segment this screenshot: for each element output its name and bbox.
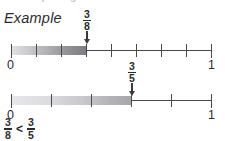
eighths-shaded-bar	[11, 46, 86, 55]
inequality-right-fraction: 3 5	[27, 118, 35, 139]
inequality-statement: 3 8 < 3 5	[4, 118, 35, 140]
pointer-numerator: 3	[74, 10, 100, 19]
fifths-tick-2	[91, 94, 92, 107]
fifths-tick-5	[211, 94, 212, 108]
pointer-numerator: 3	[119, 62, 145, 71]
fifths-axis	[0, 94, 225, 108]
clipped-header-strip: Comparing fractions	[0, 0, 225, 7]
right-denominator: 5	[27, 131, 35, 140]
eighths-axis	[0, 44, 225, 58]
eighths-tick-2	[61, 44, 62, 57]
eighths-tick-6	[161, 44, 162, 57]
inequality-left-fraction: 3 8	[4, 118, 12, 139]
down-arrow-icon	[84, 31, 91, 44]
fifths-shaded-bar	[11, 96, 131, 105]
fifths-tick-3	[131, 94, 132, 107]
eighths-tick-7	[186, 44, 187, 57]
pointer-three-eighths: 3 8	[74, 10, 100, 44]
inequality-operator: <	[16, 122, 23, 136]
pointer-denominator: 5	[119, 74, 145, 83]
pointer-denominator: 8	[74, 22, 100, 31]
fifths-tick-0	[11, 94, 12, 108]
eighths-start-label: 0	[7, 58, 14, 72]
eighths-tick-3	[86, 44, 87, 57]
fifths-end-label: 1	[208, 108, 215, 122]
pointer-three-fifths: 3 5	[119, 62, 145, 96]
eighths-tick-0	[11, 44, 12, 58]
example-label: Example	[4, 10, 62, 26]
left-numerator: 3	[4, 118, 12, 127]
eighths-tick-4	[111, 44, 112, 57]
left-denominator: 8	[4, 131, 12, 140]
eighths-tick-5	[136, 44, 137, 57]
fifths-tick-1	[51, 94, 52, 107]
eighths-tick-1	[36, 44, 37, 57]
eighths-tick-8	[211, 44, 212, 58]
fifths-tick-4	[171, 94, 172, 107]
clipped-header-text: Comparing fractions	[16, 0, 129, 2]
eighths-end-label: 1	[208, 58, 215, 72]
eighths-number-line: 0 1	[0, 44, 225, 74]
right-numerator: 3	[27, 118, 35, 127]
